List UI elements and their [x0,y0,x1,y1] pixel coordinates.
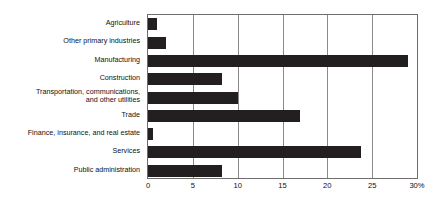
category-label: Public administration [0,161,143,179]
bar-row [148,52,417,70]
value-tick-label: 5 [191,181,195,190]
bar-row [148,125,417,143]
bar-row [148,88,417,106]
category-label: Finance, insurance, and real estate [0,124,143,142]
bar-row [148,107,417,125]
value-tick-label: 10 [233,181,241,190]
bar-row [148,15,417,33]
value-tick-label: 25 [368,181,376,190]
bar-row [148,70,417,88]
bar-chart: AgricultureOther primary industriesManuf… [0,0,447,206]
value-tick-label: 20 [323,181,331,190]
bar[interactable] [148,165,222,177]
bar[interactable] [148,37,166,49]
category-label: Other primary industries [0,32,143,50]
category-axis-labels: AgricultureOther primary industriesManuf… [0,14,143,179]
category-label: Trade [0,106,143,124]
bar[interactable] [148,92,238,104]
bar-row [148,162,417,180]
category-label: Agriculture [0,14,143,32]
bar[interactable] [148,146,361,158]
value-tick-label: 15 [278,181,286,190]
plot-area [147,14,418,179]
bar[interactable] [148,73,222,85]
bar-rows [148,15,417,178]
bar-row [148,143,417,161]
bar[interactable] [148,128,153,140]
bar[interactable] [148,110,300,122]
value-axis-ticks: 051015202530% [0,181,447,195]
category-label: Transportation, communications, and othe… [0,87,143,105]
value-tick-label: 30% [409,181,424,190]
category-label: Construction [0,69,143,87]
bar-row [148,33,417,51]
bar[interactable] [148,18,157,30]
category-label: Manufacturing [0,51,143,69]
category-label: Services [0,142,143,160]
value-tick-label: 0 [146,181,150,190]
bar[interactable] [148,55,408,67]
